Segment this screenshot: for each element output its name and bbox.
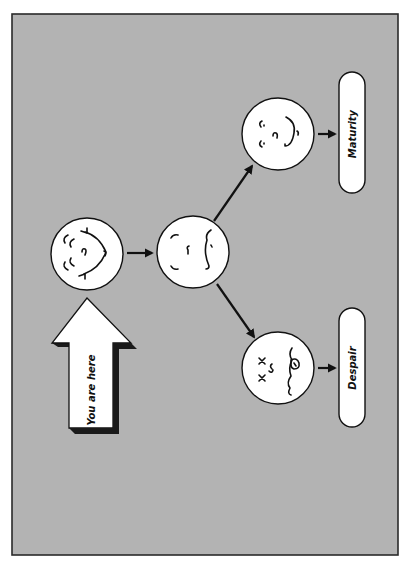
node-start (51, 218, 123, 290)
outcome-despair: Despair (339, 308, 365, 427)
node-maturity (242, 98, 314, 170)
node-despair (242, 332, 314, 404)
node-middle (157, 216, 229, 288)
neutral-face-icon (157, 216, 229, 288)
diagram-canvas: You are here (0, 0, 412, 575)
you-are-here-label: You are here (86, 354, 97, 425)
dead-face-icon (242, 332, 314, 404)
despair-label: Despair (347, 345, 358, 389)
maturity-label: Maturity (347, 109, 358, 158)
outcome-maturity: Maturity (339, 72, 365, 193)
content-face-icon (242, 98, 314, 170)
